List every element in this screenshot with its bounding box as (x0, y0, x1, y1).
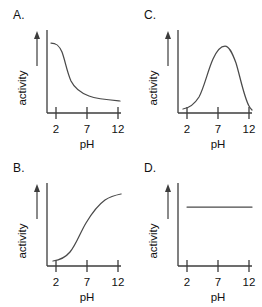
panel-a: A. activity 2 7 12 pH (0, 0, 131, 153)
ph-activity-figure: A. activity 2 7 12 pH C. activity (0, 0, 262, 307)
panel-a-x-axis-title: pH (80, 138, 95, 150)
panel-b-x-axis-title: pH (80, 291, 95, 303)
y-axis-arrow-head (165, 184, 171, 192)
panel-d: D. activity 2 7 12 pH (131, 153, 262, 306)
panel-d-xticklabel-12: 12 (243, 276, 256, 288)
panel-a-xticklabel-7: 7 (84, 123, 90, 135)
panel-d-xticklabel-7: 7 (215, 276, 221, 288)
panel-d-y-axis-title: activity (147, 223, 159, 258)
panel-a-chart: activity 2 7 12 pH (0, 0, 131, 153)
panel-d-xticklabel-2: 2 (184, 276, 190, 288)
panel-b-xticklabel-2: 2 (53, 276, 59, 288)
panel-b-xticklabel-12: 12 (112, 276, 125, 288)
panel-c-curve (183, 46, 252, 110)
panel-c-xticklabel-12: 12 (243, 123, 256, 135)
panel-c-x-axis-title: pH (211, 138, 226, 150)
panel-c-xticklabel-2: 2 (184, 123, 190, 135)
y-axis-arrow-head (34, 184, 40, 192)
panel-c: C. activity 2 7 12 pH (131, 0, 262, 153)
y-axis-arrow-head (165, 31, 171, 39)
panel-a-xticklabel-12: 12 (112, 123, 125, 135)
panel-c-xticklabel-7: 7 (215, 123, 221, 135)
panel-b: B. activity 2 7 12 pH (0, 153, 131, 306)
panel-d-chart: activity 2 7 12 pH (131, 153, 262, 306)
panel-b-xticklabel-7: 7 (84, 276, 90, 288)
y-axis-arrow-head (34, 31, 40, 39)
panel-d-x-axis-title: pH (211, 291, 226, 303)
panel-a-y-axis-title: activity (16, 70, 28, 105)
panel-c-chart: activity 2 7 12 pH (131, 0, 262, 153)
panel-a-curve (51, 43, 120, 101)
panel-b-y-axis-title: activity (16, 223, 28, 258)
panel-b-chart: activity 2 7 12 pH (0, 153, 131, 306)
panel-c-y-axis-title: activity (147, 70, 159, 105)
panel-b-curve (53, 194, 121, 261)
panel-a-xticklabel-2: 2 (53, 123, 59, 135)
